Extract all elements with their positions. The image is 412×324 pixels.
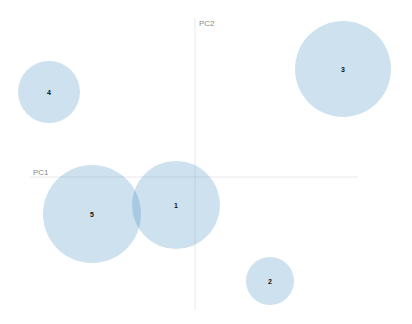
intertopic-distance-map: PC1 PC2 12345 xyxy=(0,0,412,324)
topic-circle-5[interactable] xyxy=(43,165,141,263)
topic-circle-3[interactable] xyxy=(295,21,391,117)
topic-circle-1[interactable] xyxy=(132,161,220,249)
topic-circle-4[interactable] xyxy=(18,61,80,123)
topic-circles xyxy=(18,21,391,305)
pc2-axis-label: PC2 xyxy=(199,19,215,28)
pc1-axis-label: PC1 xyxy=(33,168,49,177)
topic-circle-2[interactable] xyxy=(246,257,294,305)
